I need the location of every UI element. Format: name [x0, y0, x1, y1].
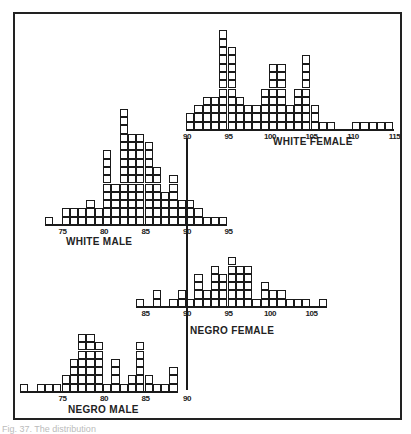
histogram-cell: [136, 175, 144, 183]
histogram-cell: [86, 200, 94, 208]
histogram-cell: [103, 200, 111, 208]
histogram-cell: [120, 184, 128, 192]
axis-tick-label: 105: [306, 309, 318, 318]
histogram-cell: [153, 200, 161, 208]
histogram-cell: [277, 80, 285, 88]
histogram-cell: [244, 274, 252, 282]
histogram-cell: [111, 359, 119, 367]
histogram-cell: [252, 105, 260, 113]
histogram-cell: [120, 208, 128, 216]
histogram-baseline: [45, 224, 228, 226]
histogram-baseline: [136, 306, 327, 308]
histogram-baseline: [20, 391, 178, 393]
histogram-cell: [277, 97, 285, 105]
histogram-cell: [194, 274, 202, 282]
histogram-cell: [120, 167, 128, 175]
histogram-cell: [252, 113, 260, 121]
histogram-cell: [219, 282, 227, 290]
histogram-cell: [261, 282, 269, 290]
histogram-cell: [261, 113, 269, 121]
histogram-cell: [78, 334, 86, 342]
histogram-cell: [277, 64, 285, 72]
histogram-cell: [111, 184, 119, 192]
histogram-cell: [120, 150, 128, 158]
histogram-cell: [236, 266, 244, 274]
histogram-cell: [294, 105, 302, 113]
histogram-cell: [136, 134, 144, 142]
histogram-cell: [161, 208, 169, 216]
histogram-cell: [228, 89, 236, 97]
axis-tick-label: 95: [225, 227, 233, 236]
histogram-cell: [120, 142, 128, 150]
histogram-cell: [95, 351, 103, 359]
figure-caption: Fig. 37. The distribution: [2, 424, 96, 434]
histogram-cell: [311, 113, 319, 121]
histogram-cell: [128, 159, 136, 167]
histogram-cell: [128, 134, 136, 142]
histogram-cell: [111, 208, 119, 216]
histogram-cell: [103, 208, 111, 216]
histogram-cell: [269, 72, 277, 80]
histogram-cell: [136, 375, 144, 383]
histogram-cell: [103, 159, 111, 167]
label-negro-male: NEGRO MALE: [68, 404, 139, 415]
histogram-cell: [111, 375, 119, 383]
histogram-cell: [277, 290, 285, 298]
histogram-cell: [128, 150, 136, 158]
histogram-cell: [219, 72, 227, 80]
histogram-cell: [86, 367, 94, 375]
histogram-cell: [161, 192, 169, 200]
histogram-cell: [95, 208, 103, 216]
histogram-cell: [120, 192, 128, 200]
histogram-cell: [103, 150, 111, 158]
histogram-cell: [136, 359, 144, 367]
histogram-cell: [145, 184, 153, 192]
histogram-cell: [103, 192, 111, 200]
histogram-cell: [219, 47, 227, 55]
histogram-cell: [145, 150, 153, 158]
histogram-cell: [228, 274, 236, 282]
histogram-cell: [153, 290, 161, 298]
histogram-cell: [219, 290, 227, 298]
histogram-cell: [128, 375, 136, 383]
histogram-cell: [120, 125, 128, 133]
histogram-cell: [236, 290, 244, 298]
histogram-cell: [128, 142, 136, 150]
histogram-cell: [145, 167, 153, 175]
histogram-cell: [86, 342, 94, 350]
histogram-cell: [219, 105, 227, 113]
histogram-cell: [194, 113, 202, 121]
axis-tick-label: 85: [142, 394, 150, 403]
histogram-cell: [302, 64, 310, 72]
histogram-cell: [186, 113, 194, 121]
histogram-cell: [136, 342, 144, 350]
histogram-cell: [169, 200, 177, 208]
histogram-cell: [211, 97, 219, 105]
histogram-cell: [145, 200, 153, 208]
histogram-cell: [70, 359, 78, 367]
histogram-cell: [136, 208, 144, 216]
histogram-cell: [161, 200, 169, 208]
histogram-cell: [86, 351, 94, 359]
axis-tick-label: 115: [389, 132, 400, 141]
histogram-cell: [244, 282, 252, 290]
histogram-cell: [219, 55, 227, 63]
histogram-baseline: [186, 129, 394, 131]
histogram-cell: [277, 72, 285, 80]
histogram-cell: [269, 97, 277, 105]
label-negro-female: NEGRO FEMALE: [190, 325, 274, 336]
histogram-cell: [219, 97, 227, 105]
histogram-cell: [178, 290, 186, 298]
histogram-cell: [228, 47, 236, 55]
histogram-cell: [286, 105, 294, 113]
histogram-cell: [311, 105, 319, 113]
histogram-cell: [219, 30, 227, 38]
histogram-cell: [203, 97, 211, 105]
axis-tick-label: 95: [225, 309, 233, 318]
histogram-cell: [78, 208, 86, 216]
histogram-cell: [228, 105, 236, 113]
histogram-cell: [145, 142, 153, 150]
histogram-cell: [302, 97, 310, 105]
histogram-cell: [120, 109, 128, 117]
histogram-cell: [169, 208, 177, 216]
